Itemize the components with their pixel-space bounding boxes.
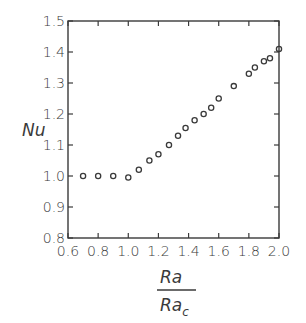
data-point [231,84,236,89]
plot-border [68,21,279,238]
data-point [136,167,141,172]
data-point [96,173,101,178]
y-tick-label: 1.1 [43,137,65,153]
x-tick-label: 1.8 [238,243,260,259]
x-axis-ticks: 0.60.81.01.21.41.61.82.0 [57,21,290,259]
data-point [183,125,188,130]
x-axis-label-denominator: Rac [160,295,189,319]
data-point [111,173,116,178]
y-tick-label: 1.0 [43,168,65,184]
x-tick-label: 1.2 [147,243,169,259]
y-tick-label: 0.9 [43,199,65,215]
data-point [192,118,197,123]
data-point [80,173,85,178]
y-tick-label: 1.5 [43,13,65,29]
y-tick-label: 1.3 [43,75,65,91]
data-point [156,152,161,157]
plot-frame [68,21,279,238]
data-point [175,133,180,138]
x-axis-label: Ra Rac [157,267,196,319]
data-point [246,71,251,76]
x-tick-label: 1.4 [177,243,199,259]
x-axis-label-numerator: Ra [160,267,182,287]
data-point [147,158,152,163]
data-point [261,59,266,64]
y-axis-ticks: 0.80.91.01.11.21.31.41.5 [43,13,279,246]
data-points [80,46,281,180]
x-tick-label: 1.6 [208,243,230,259]
data-point [209,105,214,110]
data-point [201,111,206,116]
data-point [267,56,272,61]
data-point [126,175,131,180]
x-tick-label: 1.0 [117,243,139,259]
data-point [166,142,171,147]
scatter-chart: 0.60.81.01.21.41.61.82.0 0.80.91.01.11.2… [0,0,306,323]
x-tick-label: 2.0 [268,243,290,259]
data-point [252,65,257,70]
y-axis-label: Nu [22,120,46,140]
y-tick-label: 1.2 [43,106,65,122]
data-point [216,96,221,101]
y-tick-label: 0.8 [43,230,65,246]
y-tick-label: 1.4 [43,44,65,60]
x-tick-label: 0.8 [87,243,109,259]
